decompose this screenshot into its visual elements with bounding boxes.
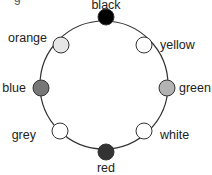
node-white — [136, 123, 152, 139]
label-blue: blue — [2, 81, 26, 95]
node-red — [98, 144, 114, 160]
node-blue — [33, 80, 49, 96]
node-orange — [53, 37, 69, 53]
node-green — [159, 80, 175, 96]
node-yellow — [136, 37, 152, 53]
label-red: red — [97, 161, 115, 175]
label-yellow: yellow — [160, 38, 196, 52]
label-orange: orange — [8, 31, 47, 45]
label-green: green — [179, 81, 211, 95]
label-black: black — [91, 0, 121, 12]
node-grey — [52, 123, 68, 139]
label-white: white — [159, 128, 189, 142]
label-grey: grey — [12, 128, 37, 142]
node-group — [33, 9, 175, 160]
color-ring-diagram: blackyellowgreenwhiteredgreyblueorange — [0, 0, 212, 175]
